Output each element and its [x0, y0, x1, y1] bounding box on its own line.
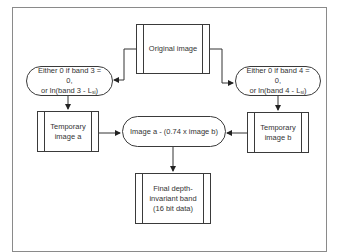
final-band-line3: (16 bit data)	[149, 204, 196, 214]
right-condition-line2: or ln(band 4 - Lsi)	[244, 86, 312, 96]
right-condition-node: Either 0 if band 4 = 0, or ln(band 4 - L…	[235, 66, 321, 96]
final-band-line1: Final depth-	[149, 184, 196, 194]
edge-original-to-cond-left	[114, 49, 136, 80]
temporary-image-a-line2: image a	[50, 132, 85, 142]
left-condition-line2: or ln(band 3 - Lsi)	[35, 86, 104, 96]
original-image-node: Original image	[136, 24, 210, 74]
final-band-line2: invariant band	[149, 194, 196, 204]
combine-label: Image a - (0.74 x image b)	[130, 127, 218, 137]
original-image-label: Original image	[149, 44, 197, 54]
temporary-image-b-line2: image b	[260, 133, 295, 143]
final-band-node: Final depth- invariant band (16 bit data…	[135, 173, 211, 224]
temporary-image-a-line1: Temporary	[50, 122, 85, 132]
left-condition-line1: Either 0 if band 3 = 0,	[35, 66, 104, 86]
temporary-image-b-line1: Temporary	[260, 123, 295, 133]
combine-node: Image a - (0.74 x image b)	[122, 116, 226, 147]
right-condition-line1: Either 0 if band 4 = 0,	[244, 66, 312, 86]
temporary-image-a-node: Temporary image a	[37, 111, 99, 152]
edge-original-to-cond-right	[210, 49, 233, 83]
left-condition-node: Either 0 if band 3 = 0, or ln(band 3 - L…	[26, 66, 113, 96]
temporary-image-b-node: Temporary image b	[247, 112, 309, 153]
